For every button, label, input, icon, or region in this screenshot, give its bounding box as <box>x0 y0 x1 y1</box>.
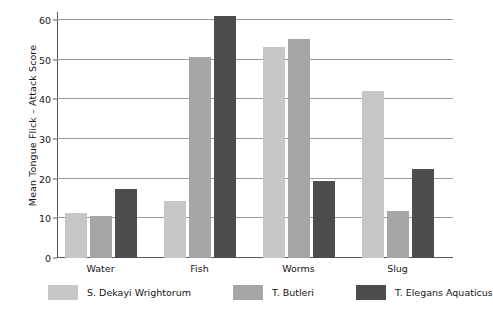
legend-item[interactable]: T. Butleri <box>233 285 314 300</box>
plot-area: 0102030405060 <box>57 12 453 258</box>
legend-swatch <box>48 285 78 300</box>
bar <box>362 91 384 258</box>
gridline <box>57 59 453 60</box>
y-axis-tick-label: 0 <box>45 253 51 264</box>
x-axis-category-label: Fish <box>190 263 208 274</box>
legend-swatch <box>233 285 263 300</box>
bar <box>387 211 409 258</box>
bar <box>90 216 112 258</box>
y-axis-tick-mark <box>53 178 57 179</box>
x-axis-category-label: Worms <box>282 263 315 274</box>
bar <box>65 213 87 258</box>
x-axis-category-label: Slug <box>387 263 408 274</box>
legend-swatch <box>356 285 386 300</box>
x-axis-category-label: Water <box>86 263 114 274</box>
y-axis-line <box>57 12 58 258</box>
y-axis-tick-mark <box>53 258 57 259</box>
gridline <box>57 19 453 20</box>
gridline <box>57 138 453 139</box>
bar <box>313 181 335 258</box>
y-axis-tick-mark <box>53 218 57 219</box>
legend-label: S. Dekayi Wrightorum <box>87 287 191 298</box>
y-axis-title: Mean Tongue Flick – Attack Score <box>27 26 38 226</box>
y-axis-tick-mark <box>53 19 57 20</box>
y-axis-tick-mark <box>53 59 57 60</box>
legend-item[interactable]: T. Elegans Aquaticus <box>356 285 493 300</box>
y-axis-tick-label: 50 <box>39 54 51 65</box>
y-axis-tick-label: 10 <box>39 213 51 224</box>
chart-legend: S. Dekayi WrightorumT. ButleriT. Elegans… <box>48 285 493 300</box>
y-axis-tick-mark <box>53 138 57 139</box>
legend-item[interactable]: S. Dekayi Wrightorum <box>48 285 191 300</box>
bar <box>412 169 434 258</box>
gridline <box>57 178 453 179</box>
legend-label: T. Butleri <box>272 287 314 298</box>
bar <box>189 57 211 258</box>
y-axis-tick-mark <box>53 99 57 100</box>
bar <box>115 189 137 258</box>
y-axis-tick-label: 20 <box>39 173 51 184</box>
y-axis-tick-label: 60 <box>39 14 51 25</box>
bar <box>214 16 236 258</box>
bar <box>288 39 310 258</box>
y-axis-tick-label: 30 <box>39 133 51 144</box>
gridline <box>57 98 453 99</box>
bar <box>164 201 186 258</box>
y-axis-tick-label: 40 <box>39 94 51 105</box>
bar <box>263 47 285 258</box>
legend-label: T. Elegans Aquaticus <box>395 287 493 298</box>
